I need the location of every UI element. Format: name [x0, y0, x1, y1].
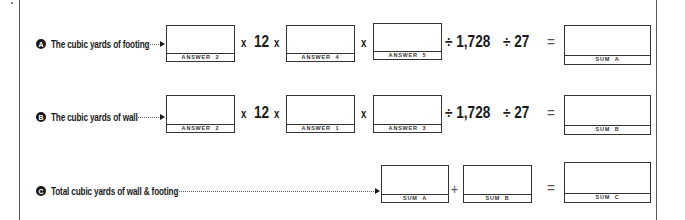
box-caption: SUM A — [382, 194, 448, 202]
sum-b-result[interactable]: SUM B — [564, 95, 651, 135]
row-c-leader — [176, 191, 376, 192]
times-sign: x — [274, 107, 279, 121]
divide-27: ÷ 27 — [503, 103, 529, 123]
times-sign: x — [241, 107, 246, 121]
box-caption: ANSWER 5 — [374, 51, 441, 59]
row-c-title: Total cubic yards of wall & footing — [51, 185, 178, 197]
arrow-right-icon — [160, 41, 165, 47]
times-sign: x — [274, 36, 279, 50]
sum-b-input-c[interactable]: SUM B — [463, 165, 532, 203]
arrow-right-icon — [375, 188, 380, 194]
sum-c-result[interactable]: SUM C — [564, 162, 651, 203]
box-caption: SUM B — [565, 125, 650, 134]
answer-2-input-b[interactable]: ANSWER 2 — [166, 95, 235, 133]
sum-a-result[interactable]: SUM A — [564, 25, 651, 65]
badge-b-icon: B — [36, 112, 46, 122]
answer-4-input-a[interactable]: ANSWER 4 — [286, 25, 355, 62]
row-b-title: The cubic yards of wall — [51, 111, 138, 123]
times-sign: x — [361, 107, 366, 121]
box-caption: SUM B — [464, 194, 531, 202]
answer-2-input-a[interactable]: ANSWER 2 — [166, 25, 235, 62]
answer-1-input-b[interactable]: ANSWER 1 — [286, 95, 355, 133]
divide-27: ÷ 27 — [503, 32, 529, 52]
badge-c-icon: C — [36, 186, 46, 196]
arrow-right-icon — [160, 114, 165, 120]
box-caption: ANSWER 3 — [374, 124, 441, 132]
plus-sign: + — [451, 180, 458, 197]
sum-a-input-c[interactable]: SUM A — [381, 165, 449, 203]
row-a-title: The cubic yards of footing — [51, 38, 149, 50]
margin-mark — [11, 2, 13, 4]
multiplier-12: 12 — [254, 32, 269, 52]
box-caption: SUM A — [565, 55, 650, 64]
box-caption: ANSWER 2 — [167, 124, 234, 132]
box-caption: ANSWER 4 — [287, 53, 354, 61]
row-a-leader — [147, 44, 161, 45]
equals-sign: = — [547, 103, 555, 123]
answer-3-input-b[interactable]: ANSWER 3 — [373, 95, 442, 133]
times-sign: x — [241, 36, 246, 50]
row-b-leader — [138, 117, 161, 118]
equals-sign: = — [547, 32, 555, 52]
divide-1728: ÷ 1,728 — [445, 103, 490, 123]
equals-sign: = — [547, 178, 555, 198]
box-caption: ANSWER 2 — [167, 53, 234, 61]
box-caption: ANSWER 1 — [287, 124, 354, 132]
answer-5-input-a[interactable]: ANSWER 5 — [373, 23, 442, 60]
badge-a-icon: A — [36, 39, 46, 49]
multiplier-12: 12 — [254, 103, 269, 123]
divide-1728: ÷ 1,728 — [445, 32, 490, 52]
times-sign: x — [361, 36, 366, 50]
box-caption: SUM C — [565, 193, 650, 202]
